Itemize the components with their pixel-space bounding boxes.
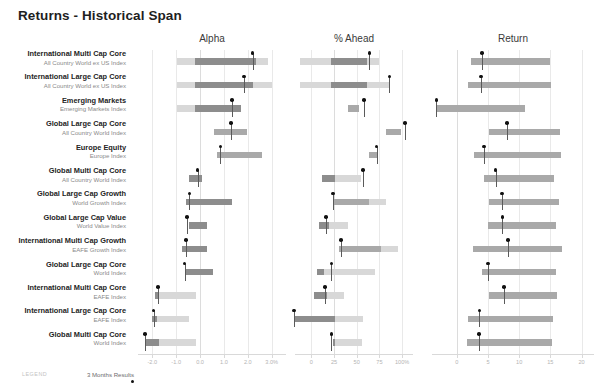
table-row (295, 307, 413, 330)
marker-tick (364, 100, 365, 117)
dot-marker (196, 168, 200, 172)
range-bar-inner (436, 105, 525, 111)
row-label-name: Europe Equity (0, 144, 126, 153)
table-row (138, 120, 286, 143)
dot-marker (501, 215, 505, 219)
row-label-name: Global Large Cap Core (0, 261, 126, 270)
axis-tick-label: 5 (487, 359, 490, 365)
marker-tick (502, 193, 503, 210)
marker-tick (231, 123, 232, 140)
panel-title-alpha: Alpha (138, 33, 286, 44)
dot-marker (500, 192, 504, 196)
table-row (295, 73, 413, 96)
table-row (138, 261, 286, 284)
dot-marker (229, 121, 233, 125)
table-row (138, 214, 286, 237)
marker-tick (508, 240, 509, 257)
row-label-name: International Multi Cap Growth (0, 237, 126, 246)
marker-tick (220, 147, 221, 164)
plot-area (432, 50, 594, 354)
axis-tick (379, 355, 380, 358)
marker-tick (496, 170, 497, 187)
row-label-name: Global Large Cap Value (0, 214, 126, 223)
marker-tick (145, 334, 146, 351)
axis-tick (457, 355, 458, 358)
plot-area (295, 50, 413, 354)
row-label-index: Europe Index (0, 152, 126, 160)
row-label-index: EAFE Growth Index (0, 246, 126, 254)
marker-tick (244, 76, 245, 93)
range-bar-inner (146, 339, 159, 345)
dot-marker (324, 215, 328, 219)
dot-marker (388, 75, 392, 79)
plot-area (138, 50, 286, 354)
range-bar-inner (195, 105, 240, 111)
table-row (432, 50, 594, 73)
marker-tick (504, 287, 505, 304)
marker-tick (294, 310, 295, 327)
range-bar-inner (348, 105, 359, 111)
range-bar-inner (322, 175, 335, 181)
axis-tick-label: 20 (578, 359, 584, 365)
axis-tick (334, 355, 335, 358)
dot-marker (330, 262, 334, 266)
table-row (295, 120, 413, 143)
table-row (138, 144, 286, 167)
marker-tick (479, 310, 480, 327)
row-label: Global Large Cap CoreAll Country World I… (0, 120, 134, 143)
axis-tick-label: 0 (310, 359, 313, 365)
dot-marker (251, 51, 255, 55)
row-label: International Multi Cap CoreEAFE Index (0, 284, 134, 307)
marker-tick (389, 76, 390, 93)
range-bar-inner (482, 269, 556, 275)
table-row (432, 331, 594, 354)
table-row (432, 73, 594, 96)
table-row (295, 284, 413, 307)
table-row (432, 261, 594, 284)
x-axis: 05101520 (432, 355, 594, 369)
table-row (295, 190, 413, 213)
dot-marker (330, 332, 334, 336)
dot-marker (339, 238, 343, 242)
row-label-index: EAFE Index (0, 316, 126, 324)
dot-marker (242, 75, 246, 79)
table-row (295, 97, 413, 120)
row-label-index: All Country World ex US Index (0, 59, 126, 67)
table-row (138, 331, 286, 354)
range-bar-outer (155, 292, 197, 298)
row-label-name: Emerging Markets (0, 97, 126, 106)
table-row (295, 50, 413, 73)
axis-tick (550, 355, 551, 358)
table-row (138, 50, 286, 73)
axis-tick (248, 355, 249, 358)
table-row (432, 144, 594, 167)
row-label-name: Global Multi Cap Core (0, 167, 126, 176)
range-bar-outer (152, 316, 189, 322)
dot-marker (292, 309, 296, 313)
table-row (295, 261, 413, 284)
x-axis: 0255075100% (295, 355, 413, 369)
table-row (295, 214, 413, 237)
range-bar-inner (334, 199, 369, 205)
row-label: International Multi Cap CoreAll Country … (0, 50, 134, 73)
dot-marker (375, 145, 379, 149)
table-row (432, 167, 594, 190)
marker-tick (507, 123, 508, 140)
axis-tick-label: 1.0 (220, 359, 228, 365)
row-label-column: International Multi Cap CoreAll Country … (0, 50, 134, 354)
chart-page: Returns - Historical Span Alpha % Ahead … (0, 0, 600, 388)
table-row (138, 284, 286, 307)
range-bar-inner (474, 152, 561, 158)
marker-tick (325, 287, 326, 304)
dot-marker (152, 309, 156, 313)
marker-tick (479, 334, 480, 351)
table-row (138, 237, 286, 260)
row-label-index: World Growth Index (0, 199, 126, 207)
marker-tick (333, 193, 334, 210)
axis-tick-label: 50 (354, 359, 360, 365)
axis-tick-label: 3.0% (265, 359, 278, 365)
dot-marker (230, 98, 234, 102)
dot-marker (505, 121, 509, 125)
table-row (432, 214, 594, 237)
axis-tick-label: 10 (516, 359, 522, 365)
